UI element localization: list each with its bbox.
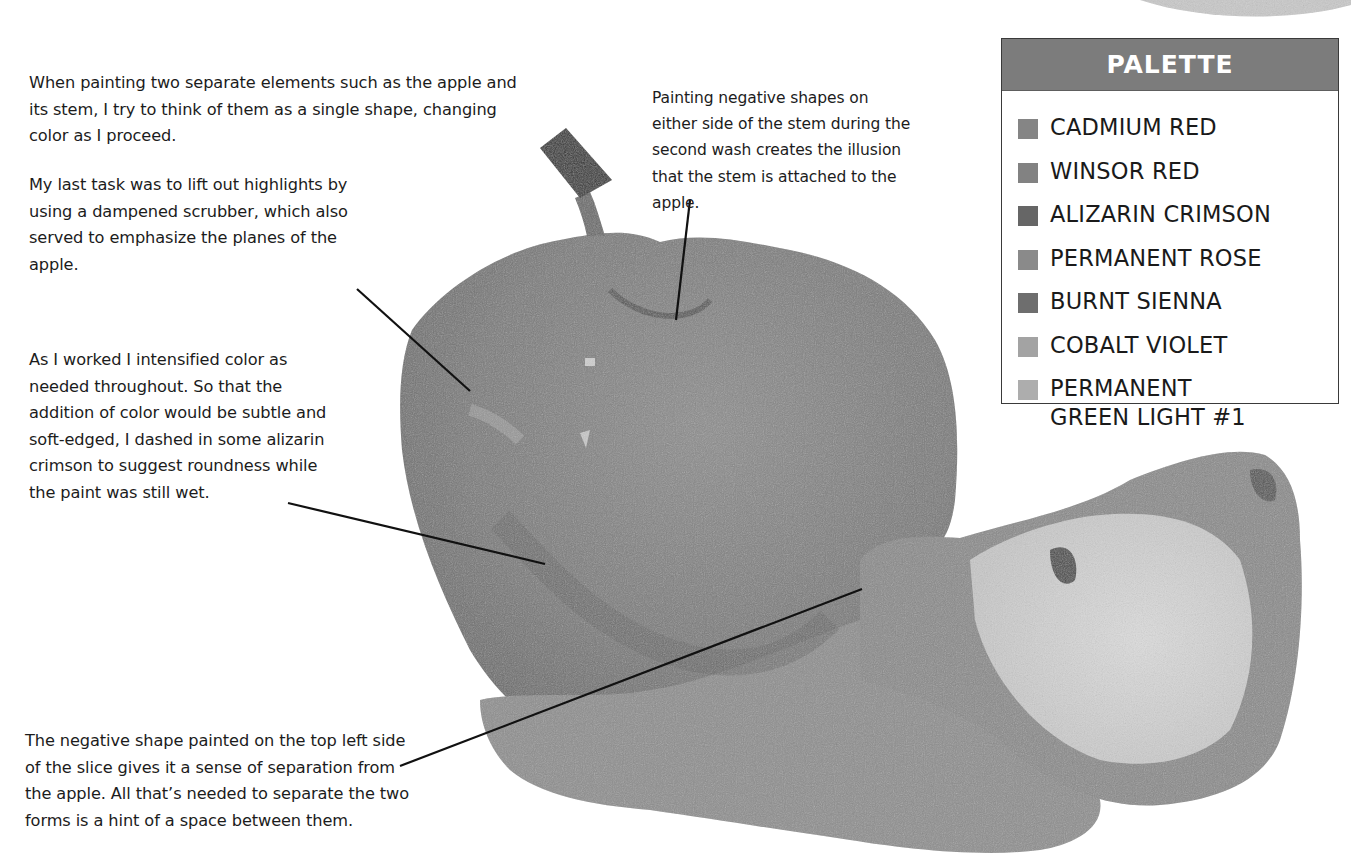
palette-header: PALETTE [1002,39,1338,91]
color-swatch-icon [1018,119,1038,139]
caption-slice-separation: The negative shape painted on the top le… [25,728,425,834]
palette-item-label: PERMANENT GREEN LIGHT #1 [1050,374,1246,432]
color-swatch-icon [1018,163,1038,183]
palette-item-label-line1: PERMANENT [1050,375,1192,401]
palette-item-label: BURNT SIENNA [1050,287,1222,316]
palette-box: PALETTE CADMIUM RED WINSOR RED ALIZARIN … [1001,38,1339,404]
palette-item-label: COBALT VIOLET [1050,331,1227,360]
color-swatch-icon [1018,206,1038,226]
caption-stem-single-shape: When painting two separate elements such… [29,70,529,150]
palette-item-winsor-red: WINSOR RED [1018,157,1338,201]
palette-item-label: WINSOR RED [1050,157,1200,186]
caption-intensify-color: As I worked I intensified color as neede… [29,347,329,506]
palette-item-alizarin-crimson: ALIZARIN CRIMSON [1018,200,1338,244]
palette-item-label: PERMANENT ROSE [1050,244,1262,273]
color-swatch-icon [1018,380,1038,400]
palette-list: CADMIUM RED WINSOR RED ALIZARIN CRIMSON … [1002,91,1338,418]
palette-title: PALETTE [1106,50,1233,79]
palette-item-label: CADMIUM RED [1050,113,1217,142]
palette-item-label-line2: GREEN LIGHT #1 [1050,403,1246,432]
palette-item-cobalt-violet: COBALT VIOLET [1018,331,1338,375]
palette-item-burnt-sienna: BURNT SIENNA [1018,287,1338,331]
palette-item-cadmium-red: CADMIUM RED [1018,113,1338,157]
color-swatch-icon [1018,337,1038,357]
color-swatch-icon [1018,293,1038,313]
plate-edge [1140,0,1351,16]
color-swatch-icon [1018,250,1038,270]
apple-stem [540,128,612,236]
palette-item-permanent-green-light: PERMANENT GREEN LIGHT #1 [1018,374,1338,418]
palette-item-label: ALIZARIN CRIMSON [1050,200,1271,229]
caption-lift-highlights: My last task was to lift out highlights … [29,172,359,278]
caption-negative-shapes-stem: Painting negative shapes on either side … [652,85,912,216]
palette-item-permanent-rose: PERMANENT ROSE [1018,244,1338,288]
